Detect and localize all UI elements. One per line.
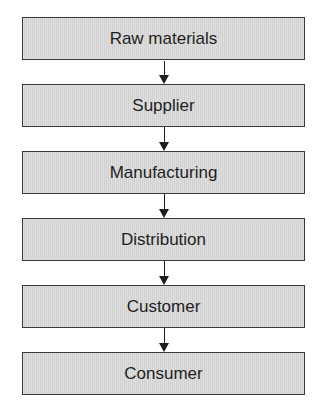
node-label: Distribution bbox=[121, 230, 206, 250]
node-raw-materials: Raw materials bbox=[22, 17, 305, 60]
node-manufacturing: Manufacturing bbox=[22, 151, 305, 194]
node-distribution: Distribution bbox=[22, 218, 305, 261]
arrow-down-icon bbox=[159, 194, 170, 218]
node-label: Raw materials bbox=[110, 29, 218, 49]
arrow-down-icon bbox=[159, 61, 170, 84]
node-consumer: Consumer bbox=[22, 352, 305, 395]
node-customer: Customer bbox=[22, 285, 305, 328]
node-label: Customer bbox=[127, 297, 201, 317]
node-label: Manufacturing bbox=[110, 163, 218, 183]
node-label: Supplier bbox=[132, 96, 194, 116]
node-supplier: Supplier bbox=[22, 84, 305, 127]
node-label: Consumer bbox=[124, 364, 202, 384]
arrow-down-icon bbox=[159, 328, 170, 352]
arrow-down-icon bbox=[159, 261, 170, 285]
arrow-down-icon bbox=[159, 127, 170, 151]
